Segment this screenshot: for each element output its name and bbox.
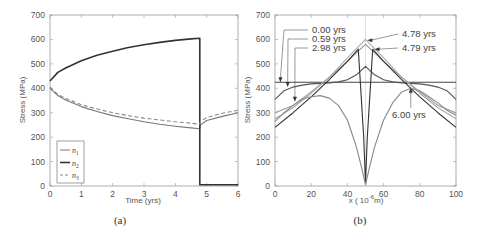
annotations-b: 0.00 yrs0.59 yrs2.98 yrs4.78 yrs4.79 yrs… [278,24,436,120]
y-tick-label: 500 [256,59,270,69]
caption-a: (a) [114,214,127,227]
x-tick-label: 0 [48,189,53,199]
annotation-label: 4.79 yrs [402,42,436,53]
y-tick-label: 600 [31,34,45,44]
x-tick-label: 0 [273,189,278,199]
arrow-head-icon [286,82,290,87]
annotation-leader [379,48,398,49]
x-tick-label: 80 [415,189,425,199]
x-tick-label: 4 [173,189,178,199]
annotation-leader [295,48,308,98]
annotation-label: 6.00 yrs [392,109,426,120]
y-tick-label: 400 [31,83,45,93]
y-tick-label: 300 [31,108,45,118]
y-tick-label: 0 [40,181,45,191]
x-tick-label: 2 [110,189,115,199]
x-tick-label: 100 [449,189,463,199]
y-tick-label: 300 [256,108,270,118]
y-tick-label: 100 [256,157,270,167]
chart-b: 0100200300400500600700 020406080100 0.00… [243,10,463,227]
x-tick-label: 1 [79,189,84,199]
x-tick-label: 20 [306,189,316,199]
y-axis-label-b: Stress (MPa) [243,76,252,123]
figure: 0100200300400500600700 0123456 Time (yrs… [0,0,485,240]
y-tick-label: 0 [265,181,270,191]
x-tick-label: 5 [204,189,209,199]
annotation-leader [371,34,398,40]
arrow-head-icon [278,77,282,82]
chart-a: 0100200300400500600700 0123456 Time (yrs… [18,10,241,227]
y-tick-label: 400 [256,83,270,93]
y-tick-label: 200 [256,132,270,142]
y-tick-label: 100 [31,157,45,167]
arrow-head-icon [293,97,297,102]
annotation-label: 4.78 yrs [402,28,436,39]
y-tick-label: 600 [256,34,270,44]
x-tick-label: 6 [236,189,241,199]
annotation-label: 2.98 yrs [312,42,346,53]
y-tick-label: 200 [31,132,45,142]
caption-b: (b) [354,214,367,227]
y-tick-label: 500 [31,59,45,69]
legend-a: n1n2n3 [57,141,84,183]
y-axis-label-a: Stress (MPa) [18,76,27,123]
x-axis-label-b: x ( 10-6m) [349,194,384,205]
x-axis-label-a: Time (yrs) [125,196,161,205]
y-tick-label: 700 [256,10,270,20]
y-tick-label: 700 [31,10,45,20]
series-line [50,88,238,129]
annotation-leader [288,39,308,83]
annotation-leader [280,30,308,78]
